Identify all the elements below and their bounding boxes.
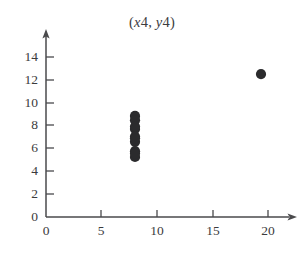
- x-tick-label-5: 5: [87, 224, 115, 238]
- data-point-outlier: [256, 69, 266, 79]
- data-point: [130, 133, 140, 143]
- data-points-group: [130, 69, 266, 162]
- y-tick-label-4: 4: [12, 164, 38, 178]
- axis-lines-group: [42, 29, 297, 221]
- y-tick-label-6: 6: [12, 141, 38, 155]
- y-tick-label-14: 14: [12, 50, 38, 64]
- y-tick-label-2: 2: [12, 187, 38, 201]
- y-tick-label-12: 12: [12, 73, 38, 87]
- y-tick-label-0: 0: [12, 210, 38, 224]
- x-tick-label-10: 10: [143, 224, 171, 238]
- plot-axes-svg: [0, 0, 304, 254]
- y-tick-label-10: 10: [12, 96, 38, 110]
- x-tick-label-15: 15: [199, 224, 227, 238]
- data-point: [130, 122, 140, 132]
- data-point: [130, 148, 140, 158]
- scatter-plot-figure: (x4, y4): [0, 0, 304, 254]
- x-tick-label-0: 0: [32, 224, 60, 238]
- y-tick-label-8: 8: [12, 118, 38, 132]
- x-tick-label-20: 20: [254, 224, 282, 238]
- y-axis-ticks-group: [46, 57, 54, 194]
- x-axis-ticks-group: [101, 210, 268, 217]
